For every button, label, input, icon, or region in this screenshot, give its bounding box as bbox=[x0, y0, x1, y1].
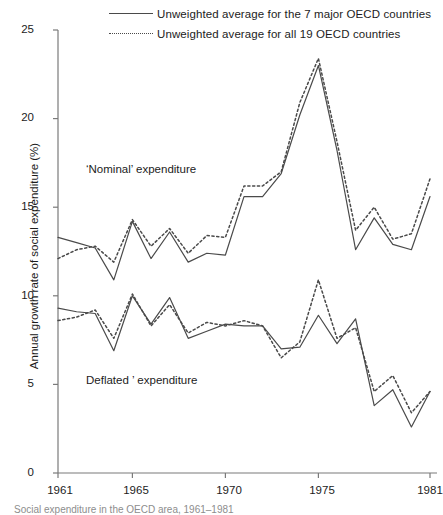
series-line-deflated-all-19 bbox=[58, 280, 430, 413]
chart-axes bbox=[53, 30, 437, 478]
series-line-deflated-7-major bbox=[58, 296, 430, 427]
figure-caption: Social expenditure in the OECD area, 196… bbox=[14, 504, 234, 515]
series-line-nominal-all-19 bbox=[58, 58, 430, 262]
series-line-nominal-7-major bbox=[58, 65, 430, 279]
chart-series-layer bbox=[58, 58, 430, 427]
